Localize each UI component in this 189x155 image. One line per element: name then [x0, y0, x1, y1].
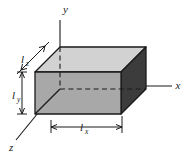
y-axis-label: y [62, 3, 68, 15]
diagram-canvas: y x z l z l y l x [0, 0, 189, 155]
dimension-ly [17, 72, 27, 114]
ly-label-symbol: l [12, 89, 15, 101]
ly-label: l y [12, 89, 21, 104]
lz-guide-start [17, 66, 25, 74]
lz-guide-end [41, 42, 49, 50]
z-axis-label: z [8, 141, 14, 153]
lx-label: l x [80, 121, 89, 136]
ly-label-subscript: y [16, 95, 21, 104]
x-axis-label: x [175, 79, 181, 91]
box-group [35, 47, 146, 114]
lx-label-subscript: x [84, 127, 89, 136]
lz-label-symbol: l [21, 53, 24, 65]
box-diagram-figure: y x z l z l y l x [0, 0, 189, 155]
lx-label-symbol: l [80, 121, 83, 133]
lz-label-subscript: z [25, 59, 29, 68]
front-face [35, 72, 121, 114]
